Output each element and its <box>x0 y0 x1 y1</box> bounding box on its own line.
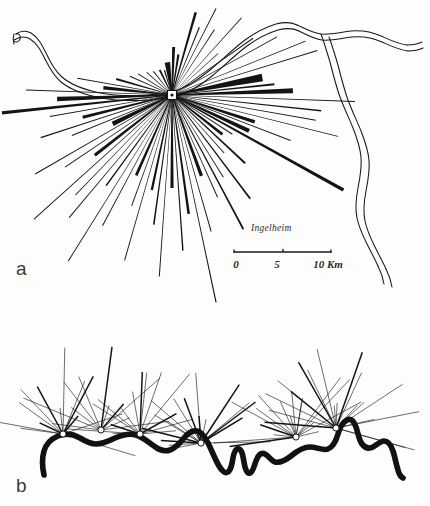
panel-b-node-1 <box>60 431 66 437</box>
panel-b-node-4 <box>198 440 204 446</box>
figure-container: Ingelheim 0 5 10 Km a b <box>0 0 430 506</box>
place-label-ingelheim: Ingelheim <box>250 223 292 233</box>
ingelheim-hub-marker <box>168 91 177 100</box>
panel-b-node-5 <box>293 434 299 440</box>
scale-tick-10km: 10 Km <box>313 258 343 270</box>
scale-tick-0: 0 <box>233 258 239 270</box>
panel-b-node-3 <box>137 431 143 437</box>
panel-b-node-2 <box>98 427 104 433</box>
panel-label-a: a <box>16 258 27 279</box>
panel-b-node-6 <box>333 425 339 431</box>
scale-tick-5: 5 <box>274 258 280 270</box>
panel-label-b: b <box>16 475 27 496</box>
figure-svg: Ingelheim 0 5 10 Km a b <box>0 0 430 506</box>
